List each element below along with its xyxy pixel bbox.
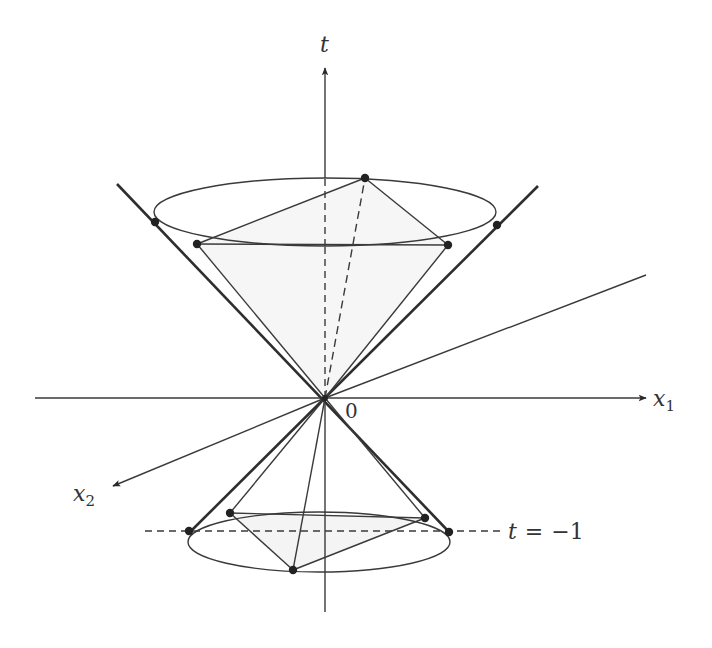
- dot-upper-left-tangent: [151, 218, 159, 226]
- dot-lower-back-right: [421, 514, 429, 522]
- origin-label: 0: [345, 399, 358, 423]
- dot-upper-front-right: [444, 241, 452, 249]
- dot-origin: [322, 395, 328, 401]
- dot-lower-front: [289, 566, 297, 574]
- x1-axis-label: x1: [653, 386, 675, 415]
- dot-upper-front-left: [193, 240, 201, 248]
- x2-axis: [113, 398, 325, 486]
- x2-axis-label: x2: [73, 481, 95, 510]
- light-cone-diagram: t x1 x2 0 t=−1: [0, 0, 712, 648]
- lower-simplex: [230, 513, 425, 570]
- dot-lower-left-tangent: [185, 527, 193, 535]
- dot-lower-right-tangent: [445, 528, 453, 536]
- dot-upper-right-tangent: [493, 221, 501, 229]
- dot-upper-back: [361, 174, 369, 182]
- dot-lower-back-left: [226, 509, 234, 517]
- t-axis-label: t: [320, 32, 329, 57]
- plane-label: t=−1: [508, 519, 584, 544]
